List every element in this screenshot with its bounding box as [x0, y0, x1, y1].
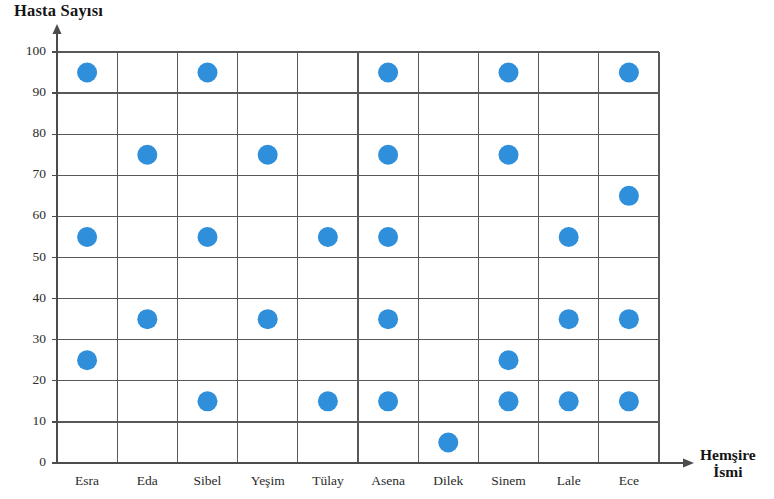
x-axis-arrow [683, 459, 694, 468]
data-point [198, 63, 218, 83]
data-point [499, 391, 519, 411]
data-point [137, 309, 157, 329]
x-tick-label: Yeşim [238, 473, 298, 489]
data-point [499, 63, 519, 83]
data-point [619, 309, 639, 329]
x-tick-label: Tülay [298, 473, 358, 489]
y-tick-label: 0 [12, 454, 46, 470]
scatter-chart: Hasta Sayısı Hemşire İsmi 01020304050607… [0, 0, 774, 499]
data-point [438, 432, 458, 452]
data-point [619, 63, 639, 83]
data-point [378, 145, 398, 165]
y-tick-label: 30 [12, 331, 46, 347]
y-tick-label: 100 [12, 43, 46, 59]
data-point [77, 350, 97, 370]
data-point [559, 391, 579, 411]
data-point [619, 186, 639, 206]
axis-lines [52, 24, 694, 468]
data-point [258, 145, 278, 165]
plot-area [0, 0, 774, 499]
y-tick-label: 70 [12, 166, 46, 182]
y-axis-arrow [53, 24, 62, 34]
y-tick-label: 90 [12, 84, 46, 100]
y-tick-label: 60 [12, 207, 46, 223]
data-point [378, 309, 398, 329]
y-tick-label: 80 [12, 125, 46, 141]
x-tick-label: Sibel [177, 473, 237, 489]
data-point [559, 309, 579, 329]
data-point [499, 350, 519, 370]
y-tick-label: 40 [12, 290, 46, 306]
x-tick-label: Dilek [418, 473, 478, 489]
data-point [318, 227, 338, 247]
data-point [499, 145, 519, 165]
y-tick-label: 20 [12, 372, 46, 388]
data-point [258, 309, 278, 329]
x-tick-label: Esra [57, 473, 117, 489]
x-tick-label: Sinem [478, 473, 538, 489]
x-tick-label: Ece [599, 473, 659, 489]
data-point [559, 227, 579, 247]
data-point [378, 391, 398, 411]
y-tick-label: 10 [12, 413, 46, 429]
y-tick-label: 50 [12, 249, 46, 265]
data-point [198, 391, 218, 411]
x-tick-label: Eda [117, 473, 177, 489]
data-point [77, 227, 97, 247]
data-point [378, 227, 398, 247]
data-point [137, 145, 157, 165]
x-tick-label: Lale [539, 473, 599, 489]
data-point [619, 391, 639, 411]
data-point [77, 63, 97, 83]
data-point [318, 391, 338, 411]
x-tick-label: Asena [358, 473, 418, 489]
data-point [378, 63, 398, 83]
data-point [198, 227, 218, 247]
